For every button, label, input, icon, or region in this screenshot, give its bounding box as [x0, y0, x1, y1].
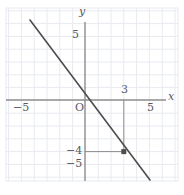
graph-figure: y x 5 −5 O 3 5 −4 −5	[0, 0, 184, 195]
y-tick-label-5: 5	[72, 28, 79, 41]
annotation-label-x3: 3	[121, 83, 128, 96]
x-tick-label-5: 5	[147, 101, 154, 114]
y-axis-label: y	[79, 5, 85, 18]
x-tick-label-neg5: −5	[13, 101, 29, 114]
coordinate-plane-svg	[0, 0, 184, 195]
y-tick-label-neg5: −5	[66, 157, 82, 170]
origin-label: O	[75, 101, 84, 114]
x-axis-label: x	[168, 90, 174, 103]
plot-frame	[6, 8, 178, 181]
grid-lines	[6, 8, 178, 181]
y-tick-label-neg4: −4	[66, 144, 82, 157]
data-point-marker	[121, 149, 126, 154]
